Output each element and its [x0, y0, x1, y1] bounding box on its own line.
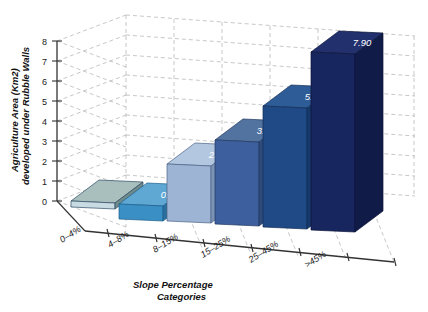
bar-value-5: 7.90	[353, 37, 372, 48]
x-axis-title-line-1: Slope Percentage	[133, 279, 213, 290]
x-tick-label-5: >45%	[303, 249, 328, 270]
y-axis-title: Agriculture Area (Km2) developed under R…	[9, 47, 31, 185]
y-tick-4: 4	[42, 117, 47, 127]
x-tick-label-1: 4–8%	[106, 229, 131, 250]
x-axis-title: Slope Percentage Categories	[133, 279, 213, 302]
bar-gt45[interactable]: 7.90	[311, 31, 383, 232]
chart-3d-bar: 0 1 2 3 4 5 6 7 8 0.80	[0, 0, 428, 312]
bars-group: 0.80 2.20 3.50 5.20	[71, 31, 383, 232]
y-tick-3: 3	[42, 137, 47, 147]
y-tick-6: 6	[42, 77, 47, 87]
y-tick-7: 7	[42, 57, 47, 67]
y-axis-title-line-2: developed under Rubble Walls	[20, 47, 31, 185]
y-tick-8: 8	[42, 37, 47, 47]
chart-svg: 0 1 2 3 4 5 6 7 8 0.80	[0, 0, 428, 312]
y-tick-5: 5	[42, 97, 47, 107]
x-tick-label-4: 25–45%	[246, 239, 280, 266]
y-tick-1: 1	[42, 177, 47, 187]
y-axis-title-line-1: Agriculture Area (Km2)	[9, 68, 20, 173]
x-tick-label-3: 15–25%	[199, 234, 232, 260]
x-tick-label-0: 0–4%	[58, 224, 83, 245]
y-tick-0: 0	[42, 197, 47, 207]
y-tick-2: 2	[42, 157, 47, 167]
x-axis-title-line-2: Categories	[157, 291, 206, 302]
